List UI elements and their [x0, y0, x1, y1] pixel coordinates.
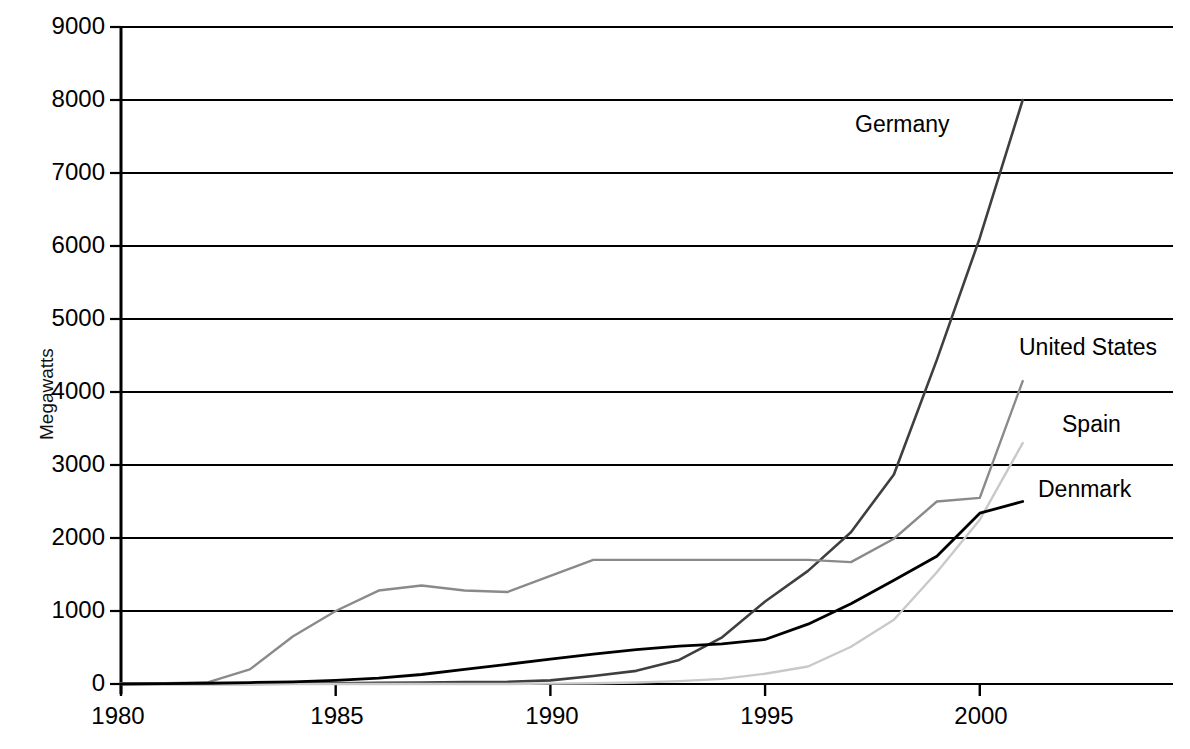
series-line-spain	[121, 443, 1023, 684]
series-line-denmark	[121, 502, 1023, 685]
series-line-united-states	[121, 381, 1023, 683]
axis-lines	[110, 27, 980, 696]
series-label-united-states: United States	[1019, 336, 1157, 359]
series-label-denmark: Denmark	[1038, 478, 1131, 501]
plot-area	[0, 0, 1190, 749]
series-label-germany: Germany	[855, 113, 950, 136]
chart-container: Megawatts 9000 8000 7000 6000 5000 4000 …	[0, 0, 1190, 749]
series-label-spain: Spain	[1062, 413, 1121, 436]
